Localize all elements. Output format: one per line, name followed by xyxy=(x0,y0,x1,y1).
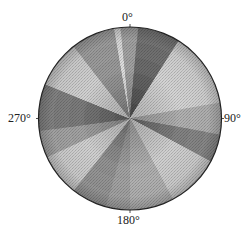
angle-label-90: 90° xyxy=(224,112,241,124)
angle-label-0: 0° xyxy=(122,11,133,23)
angle-label-270: 270° xyxy=(8,112,31,124)
angle-label-180: 180° xyxy=(117,214,140,226)
polar-density-plot xyxy=(0,0,250,241)
